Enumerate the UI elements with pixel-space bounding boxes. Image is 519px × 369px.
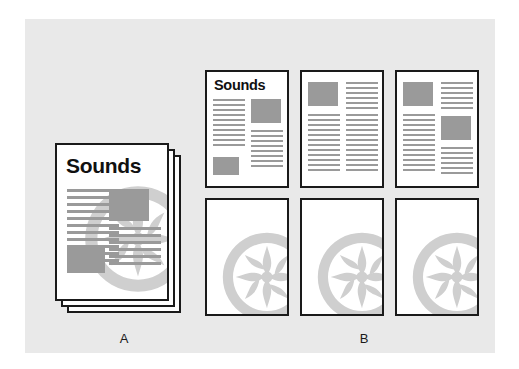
watermark-wheel-icon bbox=[316, 230, 384, 316]
output-pages-b: Sounds bbox=[205, 70, 485, 330]
image-block-upper-left bbox=[308, 82, 338, 106]
text-block-right bbox=[251, 130, 283, 170]
stack-page-front: Sounds bbox=[55, 143, 169, 301]
text-block-upper-right bbox=[346, 82, 378, 112]
figure-panel: Sounds bbox=[25, 19, 495, 353]
image-block-upper-right bbox=[109, 189, 149, 221]
text-block-upper-right bbox=[441, 82, 473, 112]
image-block-upper-left bbox=[403, 82, 433, 106]
text-block-lower-right bbox=[346, 114, 378, 174]
text-block-lower-left bbox=[308, 114, 340, 174]
page-headline: Sounds bbox=[214, 78, 265, 93]
image-block-lower-left bbox=[213, 157, 239, 175]
watermark-wheel-icon bbox=[221, 230, 289, 316]
document-stack-a: Sounds bbox=[55, 143, 205, 343]
text-block-left bbox=[213, 99, 245, 149]
image-block-upper-right bbox=[251, 99, 281, 123]
page-headline: Sounds bbox=[66, 155, 141, 176]
image-block-lower-left bbox=[67, 247, 105, 273]
text-block-lower-right bbox=[441, 147, 473, 177]
output-page-bottom-center bbox=[300, 198, 384, 316]
output-page-top-right bbox=[395, 70, 479, 188]
text-block-right bbox=[109, 227, 161, 269]
image-block-middle-right bbox=[441, 116, 471, 140]
watermark-wheel-icon bbox=[411, 230, 479, 316]
output-page-bottom-left bbox=[205, 198, 289, 316]
figure-label-a: A bbox=[111, 331, 137, 346]
text-block-lower-left bbox=[403, 114, 435, 174]
output-page-top-left: Sounds bbox=[205, 70, 289, 188]
output-page-top-center bbox=[300, 70, 384, 188]
output-page-bottom-right bbox=[395, 198, 479, 316]
figure-label-b: B bbox=[351, 331, 377, 346]
